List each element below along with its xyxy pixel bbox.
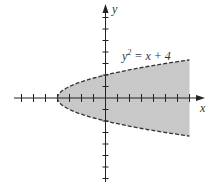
x-axis-label: x (199, 101, 206, 115)
y-axis-arrow-icon (103, 4, 109, 13)
chart: y x y2 = x + 4 (0, 0, 219, 189)
equation-label: y2 = x + 4 (121, 48, 171, 63)
y-axis-label: y (111, 2, 118, 16)
